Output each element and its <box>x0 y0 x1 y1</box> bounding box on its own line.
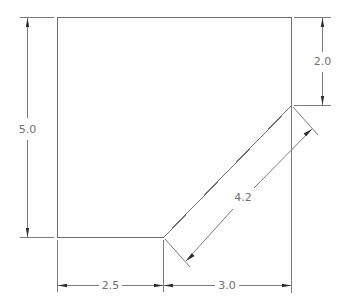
arrowhead-down-icon <box>26 228 29 237</box>
dimension-label-2-5: 2.5 <box>102 279 120 292</box>
arrowhead-left-icon <box>164 284 173 287</box>
arrowhead-up-right-icon <box>304 129 313 136</box>
arrowhead-down-icon <box>321 96 324 105</box>
arrowhead-right-icon <box>154 284 163 287</box>
extension-line-chamfer-bottom <box>165 239 190 267</box>
dimension-bottom-right: 3.0 <box>164 279 291 292</box>
technical-drawing: 5.0 2.0 4.2 2.5 3.0 <box>0 0 349 307</box>
arrowhead-left-icon <box>58 284 67 287</box>
dimension-height-left: 5.0 <box>19 18 54 238</box>
dimension-line-4-2-lower <box>186 209 233 261</box>
dimension-label-2-0: 2.0 <box>314 55 332 68</box>
arrowhead-down-left-icon <box>186 253 195 261</box>
shape-outline <box>58 18 292 238</box>
extension-line-chamfer-top <box>293 107 318 135</box>
dimension-label-3-0: 3.0 <box>218 279 236 292</box>
arrowhead-up-icon <box>26 18 29 27</box>
dimension-label-4-2: 4.2 <box>234 191 252 204</box>
dimension-chamfer: 4.2 <box>165 107 318 267</box>
arrowhead-right-icon <box>282 284 291 287</box>
bottom-extension-lines <box>58 106 292 293</box>
dimension-bottom-left: 2.5 <box>58 279 163 292</box>
dimension-line-4-2-upper <box>254 129 312 188</box>
arrowhead-up-icon <box>321 18 324 27</box>
dimension-notch-right: 2.0 <box>294 18 331 106</box>
dimension-label-5-0: 5.0 <box>19 123 37 136</box>
part-outline <box>58 18 292 238</box>
